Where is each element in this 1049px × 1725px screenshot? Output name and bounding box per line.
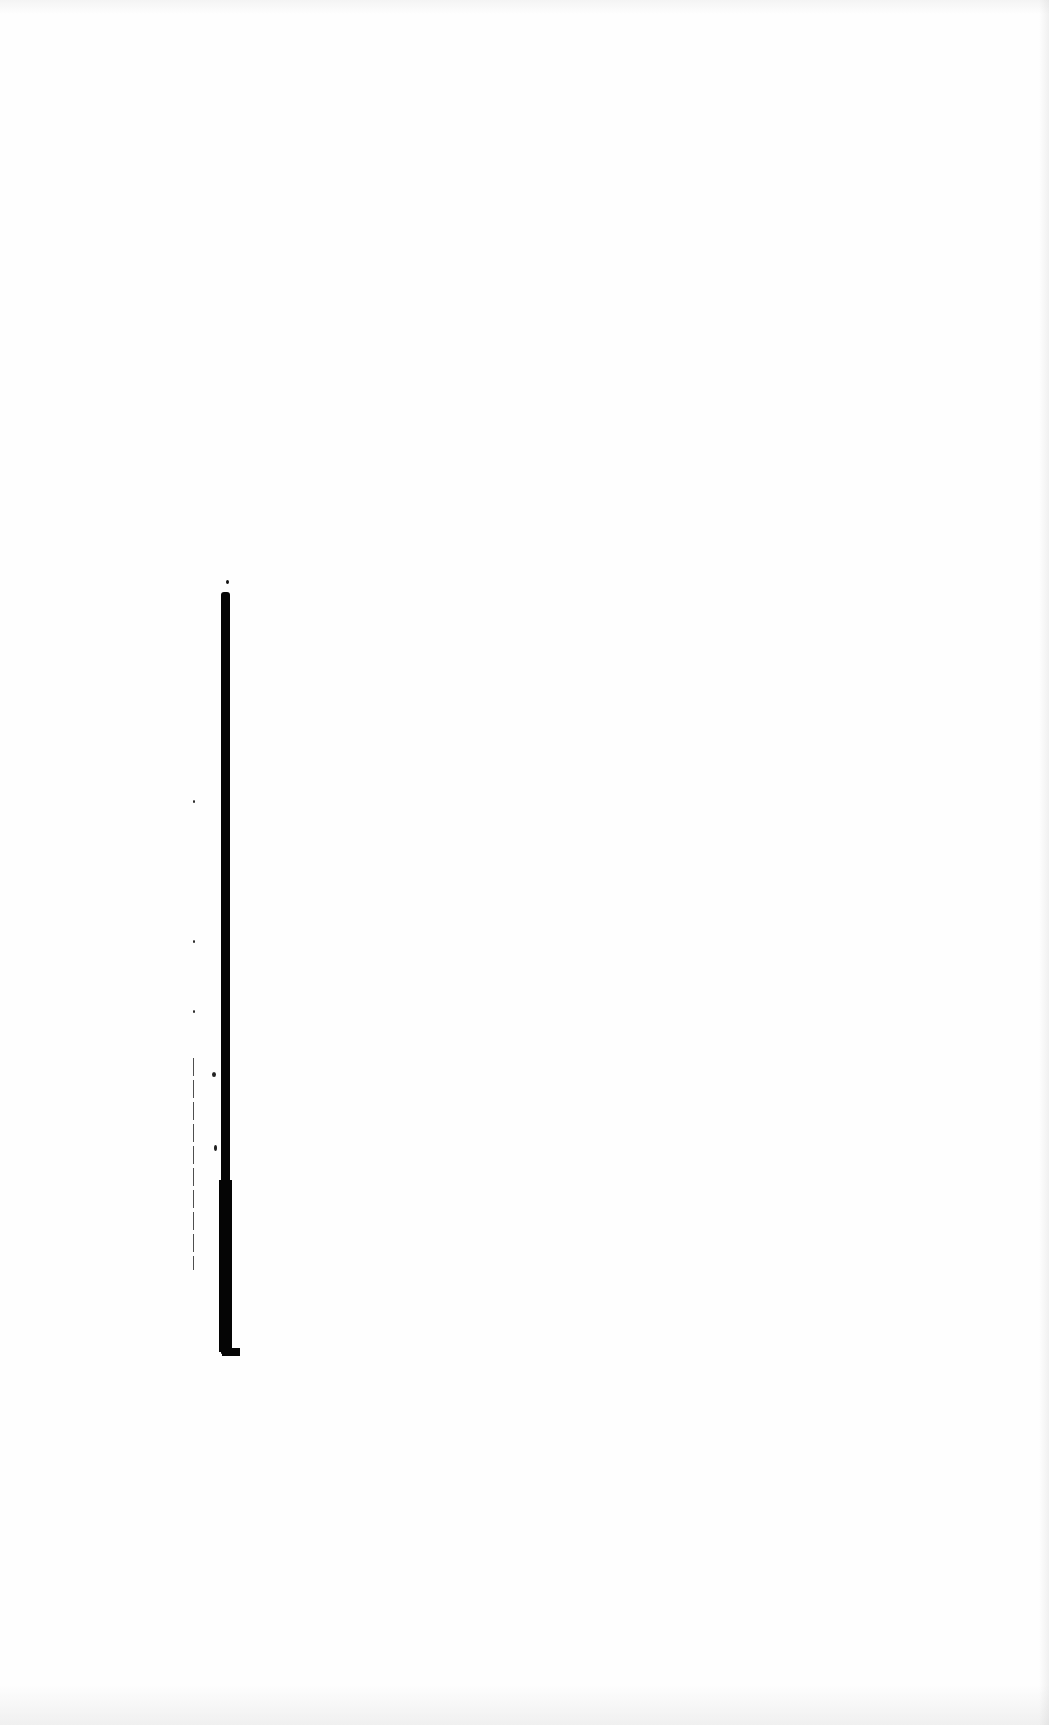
bar-tip-speck	[226, 580, 229, 584]
scan-noise-right	[1039, 0, 1049, 1725]
scan-noise-top	[0, 0, 1049, 14]
ink-speck	[193, 1010, 195, 1013]
scan-noise-bottom	[0, 1685, 1049, 1725]
scanned-page	[0, 0, 1049, 1725]
ink-speck	[193, 800, 195, 803]
binding-edge-bar-foot	[222, 1348, 240, 1356]
thin-dashed-rule	[193, 1058, 194, 1270]
ink-speck	[193, 940, 195, 943]
ink-speck	[214, 1145, 217, 1151]
ink-speck	[212, 1072, 216, 1077]
binding-edge-bar-lower	[219, 1180, 232, 1352]
